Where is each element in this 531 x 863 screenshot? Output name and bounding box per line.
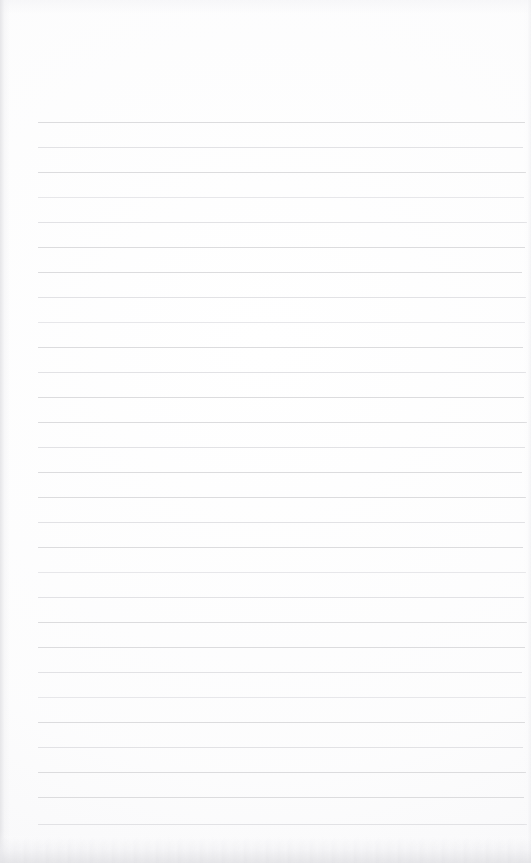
rule-line (38, 372, 526, 373)
rule-line (38, 147, 523, 148)
rule-line (38, 122, 525, 123)
rule-line (38, 447, 525, 448)
rule-line (38, 347, 523, 348)
rule-line (38, 797, 524, 798)
rule-line (38, 547, 523, 548)
rule-line (38, 222, 527, 223)
notebook-page (0, 0, 531, 863)
rule-line (38, 572, 526, 573)
rule-line (38, 622, 527, 623)
rule-line (38, 824, 527, 825)
rule-line (38, 297, 526, 298)
rule-line (38, 772, 526, 773)
rule-line (38, 172, 526, 173)
rule-line (38, 322, 525, 323)
rule-line (38, 597, 524, 598)
rule-line (38, 647, 525, 648)
rule-line (38, 422, 527, 423)
rule-line (38, 197, 524, 198)
rule-line (38, 247, 525, 248)
rule-line (38, 397, 524, 398)
rule-line (38, 472, 522, 473)
rule-line (38, 722, 525, 723)
rule-line (38, 522, 525, 523)
ruled-writing-area[interactable] (0, 0, 531, 863)
rule-line (38, 497, 526, 498)
rule-line (38, 272, 522, 273)
rule-line (38, 747, 523, 748)
rule-line (38, 672, 522, 673)
rule-line (38, 697, 526, 698)
